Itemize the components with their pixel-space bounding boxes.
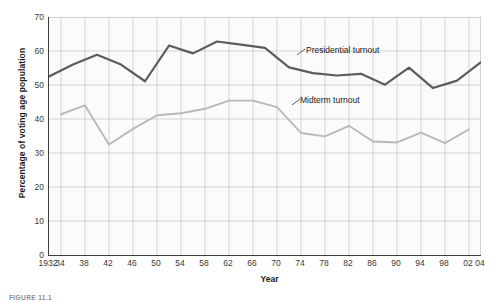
y-tick-label: 50 <box>35 80 44 90</box>
x-tick-label: 04 <box>475 258 484 268</box>
x-tick-label: 62 <box>223 258 232 268</box>
figure-caption: FIGURE 11.1 <box>9 294 52 303</box>
x-tick-label: 46 <box>127 258 136 268</box>
x-tick-label: 90 <box>391 258 400 268</box>
y-tick-label: 20 <box>35 182 44 192</box>
chart-plot-area <box>48 17 481 256</box>
x-tick-label: 54 <box>175 258 184 268</box>
x-tick-label: 34 <box>55 258 64 268</box>
gridlines <box>49 17 481 255</box>
chart-svg <box>49 17 481 255</box>
x-tick-label: 38 <box>79 258 88 268</box>
x-tick-label: 50 <box>151 258 160 268</box>
y-tick-label: 10 <box>35 216 44 226</box>
series-label-presidential: Presidential turnout <box>306 45 379 55</box>
y-tick-label: 30 <box>35 148 44 158</box>
data-series-layer <box>49 41 481 144</box>
x-tick-label: 70 <box>271 258 280 268</box>
x-axis-title: Year <box>0 274 491 284</box>
x-tick-label: 42 <box>103 258 112 268</box>
series-label-midterm: Midterm turnout <box>300 95 360 105</box>
x-tick-label: 02 <box>463 258 472 268</box>
x-tick-label: 98 <box>439 258 448 268</box>
y-tick-label: 70 <box>35 12 44 22</box>
x-axis-tick-labels: 1932343842465054586266707478828690949802… <box>0 258 491 274</box>
x-tick-label: 94 <box>415 258 424 268</box>
y-tick-label: 60 <box>35 46 44 56</box>
x-tick-label: 82 <box>343 258 352 268</box>
x-tick-label: 78 <box>319 258 328 268</box>
y-tick-label: 40 <box>35 114 44 124</box>
x-tick-label: 74 <box>295 258 304 268</box>
x-tick-label: 66 <box>247 258 256 268</box>
x-tick-label: 58 <box>199 258 208 268</box>
x-tick-label: 86 <box>367 258 376 268</box>
figure-container: Percentage of voting age population 0102… <box>0 0 491 303</box>
